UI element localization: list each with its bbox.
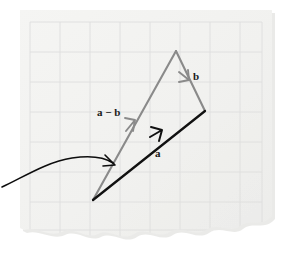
label-a-minus-b: a − b [97,106,120,118]
figure-canvas: a − b b a [0,0,290,258]
label-b: b [193,70,199,82]
vector-diagram-svg: a − b b a [0,0,290,258]
graph-paper-sheet [20,10,272,237]
label-a: a [155,147,161,159]
